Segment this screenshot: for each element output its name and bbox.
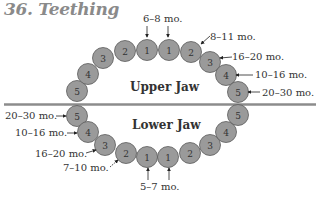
- tooth-number: 1: [144, 46, 150, 56]
- annotation-upper-incisor-central: 6–8 mo.: [143, 13, 182, 24]
- tooth-number: 2: [122, 47, 128, 57]
- annotation-lower-second-molar: 20–30 mo.: [5, 110, 57, 121]
- upper-tooth-4: 4: [78, 64, 99, 85]
- upper-tooth-2: 2: [181, 42, 202, 63]
- annotation-upper-second-molar: 20–30 mo.: [262, 87, 314, 98]
- tooth-number: 5: [235, 111, 241, 121]
- lower-jaw-label: Lower Jaw: [132, 118, 201, 132]
- tooth-number: 3: [100, 54, 106, 64]
- lower-tooth-2: 2: [116, 143, 137, 164]
- upper-jaw-label: Upper Jaw: [130, 80, 200, 94]
- tooth-number: 3: [207, 141, 213, 151]
- upper-tooth-2: 2: [115, 41, 136, 62]
- annotation-lower-canine: 16–20 mo.: [35, 148, 87, 159]
- teething-diagram: Upper Jaw Lower Jaw 5432112345 543211234…: [0, 0, 318, 200]
- annotation-upper-canine: 16–20 mo.: [232, 51, 284, 62]
- tooth-number: 3: [102, 141, 108, 151]
- tooth-number: 2: [188, 48, 194, 58]
- lower-tooth-3: 3: [95, 135, 116, 156]
- tooth-number: 1: [165, 153, 171, 163]
- tooth-number: 2: [123, 149, 129, 159]
- tooth-number: 3: [207, 58, 213, 68]
- annotation-lower-first-molar: 10–16 mo.: [15, 127, 67, 138]
- annotation-upper-incisor-lateral: 8–11 mo.: [210, 31, 256, 42]
- tooth-number: 4: [85, 70, 91, 80]
- lower-tooth-2: 2: [180, 143, 201, 164]
- tooth-number: 4: [223, 71, 229, 81]
- upper-tooth-3: 3: [93, 48, 114, 69]
- lower-tooth-4: 4: [78, 122, 99, 143]
- tooth-number: 5: [74, 112, 80, 122]
- lower-teeth: 5432112345: [67, 105, 249, 168]
- tooth-number: 5: [235, 88, 241, 98]
- tooth-number: 2: [187, 149, 193, 159]
- upper-tooth-1: 1: [159, 40, 180, 61]
- upper-tooth-5: 5: [228, 82, 249, 103]
- lower-tooth-1: 1: [137, 147, 158, 168]
- tooth-number: 1: [166, 46, 172, 56]
- lower-tooth-5: 5: [228, 105, 249, 126]
- upper-tooth-1: 1: [137, 40, 158, 61]
- annotation-lower-incisor-central: 5–7 mo.: [140, 181, 179, 192]
- annotation-lower-incisor-lateral: 7–10 mo.: [63, 162, 109, 173]
- lower-tooth-1: 1: [158, 147, 179, 168]
- annotation-upper-first-molar: 10–16 mo.: [255, 69, 307, 80]
- tooth-number: 4: [223, 128, 229, 138]
- tooth-number: 4: [85, 128, 91, 138]
- tooth-number: 5: [74, 87, 80, 97]
- tooth-number: 1: [144, 153, 150, 163]
